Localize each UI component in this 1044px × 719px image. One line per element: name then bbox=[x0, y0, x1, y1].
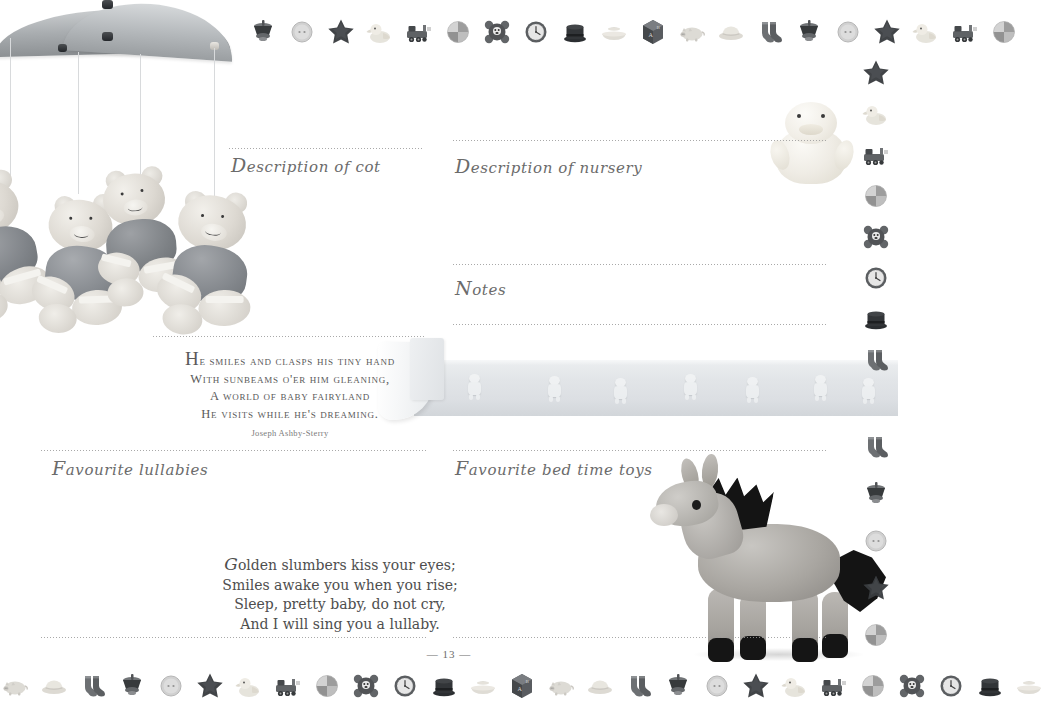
ball-icon bbox=[861, 620, 891, 650]
rule-notes-bottom bbox=[452, 324, 828, 325]
rule-nursery-top bbox=[452, 140, 828, 141]
pig-icon bbox=[0, 671, 30, 701]
bear-icon bbox=[351, 671, 381, 701]
svg-text:A: A bbox=[649, 32, 654, 38]
wallpaper-border-roll-photo bbox=[370, 336, 898, 422]
donkey-eye bbox=[692, 500, 701, 510]
border-strip bbox=[414, 360, 898, 416]
hat-icon bbox=[716, 17, 746, 47]
button-icon bbox=[287, 17, 317, 47]
duck-icon bbox=[780, 671, 810, 701]
rule-toys-bottom bbox=[452, 637, 828, 638]
train-icon bbox=[404, 17, 434, 47]
right-lower-toy-border bbox=[854, 432, 898, 662]
poem-line: With sunbeams o'er him gleaning, bbox=[150, 371, 430, 389]
boat-icon bbox=[1014, 671, 1044, 701]
bear-icon bbox=[482, 17, 512, 47]
socks-icon bbox=[861, 432, 891, 462]
bear-icon bbox=[861, 222, 891, 252]
spinning-top-icon bbox=[117, 671, 147, 701]
star-icon bbox=[741, 671, 771, 701]
top-toy-border: AB bbox=[248, 8, 898, 56]
block-icon: AB bbox=[507, 671, 537, 701]
button-icon bbox=[156, 671, 186, 701]
mobile-knob-centre bbox=[102, 32, 113, 41]
button-icon bbox=[833, 17, 863, 47]
ball-icon bbox=[989, 17, 1019, 47]
poem-line: He visits while he's dreaming. bbox=[150, 406, 430, 424]
boat-icon bbox=[468, 671, 498, 701]
clock-icon bbox=[521, 17, 551, 47]
mobile-string-1 bbox=[10, 38, 11, 184]
star-icon bbox=[861, 573, 891, 603]
star-icon bbox=[861, 58, 891, 88]
top-hat-icon bbox=[861, 304, 891, 334]
duck-head bbox=[785, 102, 837, 144]
button-icon bbox=[702, 671, 732, 701]
ball-icon bbox=[443, 17, 473, 47]
star-icon bbox=[872, 17, 902, 47]
train-icon bbox=[819, 671, 849, 701]
top-hat-icon bbox=[560, 17, 590, 47]
spinning-top-icon bbox=[861, 479, 891, 509]
right-upper-toy-border bbox=[854, 58, 898, 318]
ball-icon bbox=[858, 671, 888, 701]
mobile-knob-top bbox=[102, 0, 113, 9]
rule-lullabies-bottom bbox=[40, 637, 428, 638]
train-icon bbox=[861, 140, 891, 170]
mobile-string-3 bbox=[140, 54, 141, 176]
poem-attribution: Joseph Ashby-Sterry bbox=[150, 428, 430, 438]
mobile-string-4 bbox=[214, 48, 215, 198]
bear-icon bbox=[897, 671, 927, 701]
block-icon: AB bbox=[638, 17, 668, 47]
donkey-muzzle bbox=[650, 504, 678, 526]
socks-icon bbox=[624, 671, 654, 701]
poem-golden-slumbers: Golden slumbers kiss your eyes; Smiles a… bbox=[195, 555, 485, 634]
svg-text:A: A bbox=[518, 686, 523, 692]
mobile-knob-left bbox=[58, 44, 67, 52]
duck-icon bbox=[861, 99, 891, 129]
star-icon bbox=[326, 17, 356, 47]
duck-beak bbox=[799, 124, 823, 135]
duck-icon bbox=[234, 671, 264, 701]
duck-eye-left bbox=[797, 114, 801, 118]
input-description-of-nursery[interactable] bbox=[452, 172, 828, 260]
train-icon bbox=[273, 671, 303, 701]
page-number: — 13 — bbox=[0, 648, 898, 660]
spinning-top-icon bbox=[663, 671, 693, 701]
input-favourite-lullabies[interactable] bbox=[40, 472, 428, 552]
poem-line: Smiles awake you when you rise; bbox=[195, 576, 485, 596]
rule-notes-top bbox=[452, 264, 828, 265]
hat-icon bbox=[39, 671, 69, 701]
button-icon bbox=[861, 526, 891, 556]
socks-icon bbox=[861, 345, 891, 375]
poem-line: Golden slumbers kiss your eyes; bbox=[195, 555, 485, 576]
top-hat-icon bbox=[429, 671, 459, 701]
ball-icon bbox=[861, 181, 891, 211]
poem-line: A world of baby fairyland bbox=[150, 388, 430, 406]
input-description-of-cot[interactable] bbox=[228, 168, 428, 330]
input-notes[interactable] bbox=[452, 292, 828, 322]
poem-baby-fairyland: He smiles and clasps his tiny hand With … bbox=[150, 350, 430, 438]
socks-icon bbox=[78, 671, 108, 701]
spinning-top-icon bbox=[794, 17, 824, 47]
clock-icon bbox=[390, 671, 420, 701]
pig-icon bbox=[546, 671, 576, 701]
pig-icon bbox=[677, 17, 707, 47]
poem-line: He smiles and clasps his tiny hand bbox=[150, 350, 430, 371]
duck-icon bbox=[365, 17, 395, 47]
socks-icon bbox=[755, 17, 785, 47]
ball-icon bbox=[312, 671, 342, 701]
clock-icon bbox=[936, 671, 966, 701]
mobile-string-2 bbox=[78, 52, 79, 194]
clock-icon bbox=[861, 263, 891, 293]
rule-toys-top bbox=[452, 450, 828, 451]
poem-line: Sleep, pretty baby, do not cry, bbox=[195, 595, 485, 615]
duck-eye-right bbox=[821, 114, 825, 118]
top-hat-icon bbox=[975, 671, 1005, 701]
spinning-top-icon bbox=[248, 17, 278, 47]
bottom-toy-border: AB bbox=[0, 662, 898, 710]
poem-line: And I will sing you a lullaby. bbox=[195, 615, 485, 635]
hat-icon bbox=[585, 671, 615, 701]
